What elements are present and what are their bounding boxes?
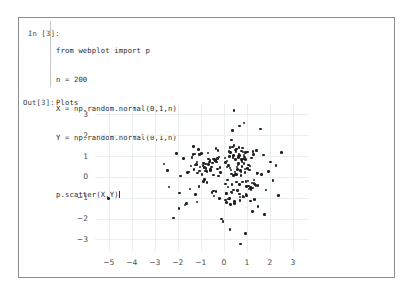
y-axis-tick-label: −3 (66, 235, 88, 244)
x-axis-tick-label: 3 (285, 258, 301, 267)
notebook-input-row: In [3]: from webplot import p n = 200 X … (19, 18, 394, 80)
x-axis-tick-label: 1 (239, 258, 255, 267)
code-line-text: n = 200 (56, 75, 87, 84)
code-line-text: from webplot import p (56, 46, 150, 55)
axis-tick-labels: 3210−1−2−3−5−4−3−2−10123 (39, 104, 379, 272)
x-axis-tick-label: −1 (193, 258, 209, 267)
code-line: n = 200 (56, 75, 177, 85)
y-axis-tick-label: −1 (66, 193, 88, 202)
x-axis-tick-label: −5 (101, 258, 117, 267)
x-axis-tick-label: −3 (147, 258, 163, 267)
prompt-divider (50, 21, 51, 87)
x-axis-tick-label: 0 (216, 258, 232, 267)
y-axis-tick-label: −2 (66, 214, 88, 223)
x-axis-tick-label: 2 (262, 258, 278, 267)
notebook-cell[interactable]: In [3]: from webplot import p n = 200 X … (18, 17, 395, 278)
x-axis-tick-label: −2 (170, 258, 186, 267)
y-axis-tick-label: 1 (66, 152, 88, 161)
y-axis-tick-label: 2 (66, 131, 88, 140)
y-axis-tick-label: 0 (66, 172, 88, 181)
input-prompt-label: In [3]: (28, 29, 60, 38)
y-axis-tick-label: 3 (66, 110, 88, 119)
code-line: from webplot import p (56, 46, 177, 56)
scatter-figure: 3210−1−2−3−5−4−3−2−10123 (39, 104, 379, 272)
x-axis-tick-label: −4 (124, 258, 140, 267)
